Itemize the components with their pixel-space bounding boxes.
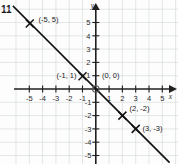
y-tick-label: -1	[85, 98, 92, 107]
point-label-neg5-5: (-5, 5)	[39, 15, 60, 24]
x-tick-label: 2	[120, 94, 124, 103]
graph-figure: 11	[0, 0, 178, 164]
y-tick-label: -5	[85, 151, 92, 160]
point-label-neg1-1: (-1, 1)	[56, 71, 77, 80]
x-tick-label: -2	[66, 94, 73, 103]
point-label-origin: (0, 0)	[102, 71, 120, 80]
x-tick-label: -5	[26, 94, 33, 103]
y-axis-label: y	[90, 1, 95, 10]
x-tick-label: -3	[53, 94, 60, 103]
coordinate-plane: -5 -4 -3 -2 -1 1 2 3 4 5 5 4 3 2 1 -1 -2…	[0, 0, 178, 164]
x-axis-label: x	[168, 92, 173, 101]
y-tick-label: 4	[86, 32, 90, 41]
point-marker-neg5-5	[26, 20, 34, 28]
point-label-3-neg3: (3, -3)	[143, 124, 164, 133]
y-axis	[92, 3, 100, 164]
y-tick-label: 2	[86, 58, 90, 67]
y-tick-label: 5	[86, 18, 90, 27]
point-label-2-neg2: (2, -2)	[130, 104, 151, 113]
y-tick-label: -4	[85, 138, 92, 147]
x-tick-label: 4	[147, 94, 151, 103]
y-tick-label: -2	[85, 111, 92, 120]
x-tick-label: 3	[134, 94, 138, 103]
y-tick-label: 3	[86, 45, 90, 54]
x-tick-label: -4	[39, 94, 46, 103]
y-tick-label: -3	[85, 125, 92, 134]
x-tick-label: 5	[160, 94, 164, 103]
